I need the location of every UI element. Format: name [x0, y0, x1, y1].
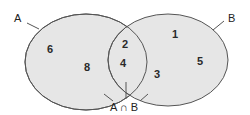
region-a-number-6: 6 [47, 43, 53, 55]
region-a-number-8: 8 [84, 61, 90, 73]
region-b-number-1: 1 [172, 28, 178, 40]
region-ab-number-2: 2 [122, 38, 128, 50]
leader-line-b [213, 21, 224, 30]
set-b-label: B [228, 12, 235, 24]
intersection-label: A ∩ B [110, 101, 138, 113]
venn-diagram: A B A ∩ B 6 8 2 4 1 5 3 [0, 0, 250, 115]
region-b-number-5: 5 [197, 55, 203, 67]
set-a-label: A [14, 12, 22, 24]
region-b-number-3: 3 [154, 68, 160, 80]
region-ab-number-4: 4 [120, 57, 127, 69]
leader-line-a [27, 23, 39, 29]
